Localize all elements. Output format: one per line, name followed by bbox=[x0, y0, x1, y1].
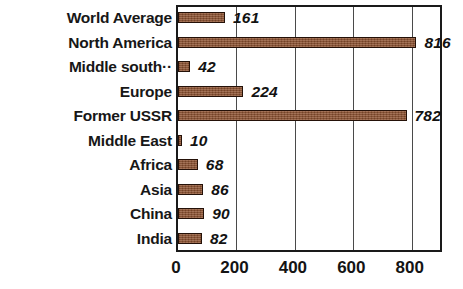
category-label: Asia bbox=[0, 181, 172, 198]
bar-value-label: 86 bbox=[211, 182, 229, 198]
category-label: Middle south·· bbox=[0, 58, 172, 75]
bar-row: 90 bbox=[176, 204, 463, 229]
x-tick-label: 400 bbox=[279, 258, 307, 278]
bar-value-label: 161 bbox=[233, 10, 259, 26]
bar bbox=[178, 233, 202, 244]
bar-row: 68 bbox=[176, 155, 463, 180]
bar-row: 224 bbox=[176, 82, 463, 107]
bar bbox=[178, 61, 190, 72]
bar bbox=[178, 135, 182, 146]
category-label: World Average bbox=[0, 9, 172, 26]
bar-value-label: 10 bbox=[190, 133, 208, 149]
bar-value-label: 42 bbox=[198, 59, 216, 75]
bar-chart: World AverageNorth AmericaMiddle south··… bbox=[0, 0, 463, 289]
bar-row: 782 bbox=[176, 106, 463, 131]
category-label: China bbox=[0, 205, 172, 222]
bars-layer: 161816422247821068869082 bbox=[176, 5, 463, 252]
x-axis-tick-labels: 0200400600800 bbox=[176, 258, 442, 284]
category-label: Africa bbox=[0, 156, 172, 173]
bar bbox=[178, 12, 225, 23]
bar-row: 42 bbox=[176, 57, 463, 82]
bar bbox=[178, 159, 198, 170]
bar-row: 10 bbox=[176, 131, 463, 156]
bar-value-label: 82 bbox=[210, 231, 228, 247]
bar-row: 816 bbox=[176, 33, 463, 58]
bar-value-label: 68 bbox=[206, 157, 224, 173]
bar bbox=[178, 110, 407, 121]
bar-value-label: 816 bbox=[424, 35, 450, 51]
x-tick-label: 600 bbox=[337, 258, 365, 278]
category-axis-labels: World AverageNorth AmericaMiddle south··… bbox=[0, 0, 172, 256]
category-label: Former USSR bbox=[0, 107, 172, 124]
x-tick-label: 200 bbox=[220, 258, 248, 278]
category-label: India bbox=[0, 230, 172, 247]
bar bbox=[178, 208, 204, 219]
bar-row: 86 bbox=[176, 180, 463, 205]
x-tick-label: 0 bbox=[171, 258, 180, 278]
category-label: Middle East bbox=[0, 132, 172, 149]
bar bbox=[178, 86, 243, 97]
bar-value-label: 782 bbox=[415, 108, 441, 124]
bar-value-label: 90 bbox=[212, 206, 230, 222]
bar bbox=[178, 37, 416, 48]
category-label: Europe bbox=[0, 83, 172, 100]
x-tick-label: 800 bbox=[396, 258, 424, 278]
bar-row: 82 bbox=[176, 229, 463, 254]
bar-value-label: 224 bbox=[251, 84, 277, 100]
category-label: North America bbox=[0, 34, 172, 51]
bar bbox=[178, 184, 203, 195]
bar-row: 161 bbox=[176, 8, 463, 33]
